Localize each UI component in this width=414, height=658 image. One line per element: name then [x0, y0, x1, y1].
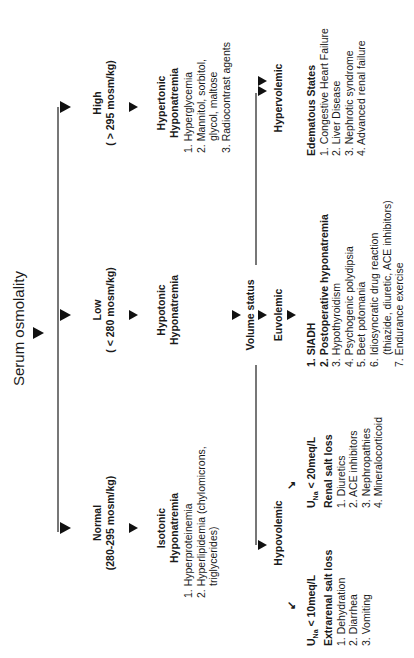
diagram-title: Serum osmolality	[10, 276, 27, 386]
list-item: 1. Hyperproteinemia	[182, 446, 195, 598]
hypotonic-hyponatremia: Hypotonic Hyponatremia	[155, 255, 181, 365]
list-item: 3. Radiocontrast agents	[220, 42, 233, 153]
down-arrow-icon	[60, 101, 71, 113]
criterion-value: < 10meq/L	[305, 575, 317, 630]
branch-normal-label: Normal	[91, 458, 104, 588]
diagonal-arrow-right-icon: ↘	[285, 481, 298, 490]
euvolemic-causes-list: 1. SIADH 2. Postoperative hyponatremia 3…	[305, 200, 406, 367]
list-item: (thiazide, diuretic, ACE inhibitors)	[381, 200, 394, 367]
extrarenal-salt-loss: UNa < 10meq/L Extrarenal salt loss 1. De…	[305, 550, 372, 646]
branch-high-label: High	[91, 38, 104, 168]
down-arrow-icon	[258, 86, 267, 96]
renal-salt-loss: UNa < 20meq/L Renal salt loss 1. Diureti…	[305, 417, 385, 508]
branch-low: Low ( < 280 mosm/kg)	[91, 245, 117, 375]
down-arrow-icon	[129, 102, 138, 112]
branch-normal: Normal (280-295 mosm/kg)	[91, 458, 117, 588]
edematous-states: Edematous States 1. Congestive Heart Fai…	[305, 28, 368, 156]
list-item: 6. Idiosyncratic drug reaction	[368, 200, 381, 367]
list-item: 2. Liver Disease	[330, 28, 343, 156]
hyponatremia-label: Hyponatremia	[168, 478, 181, 578]
criterion-prefix: U	[305, 500, 317, 508]
hypertonic-causes-list: 1. Hyperglycemia 2. Mannitol, sorbitol, …	[182, 42, 232, 153]
criterion-value: < 20meq/L	[305, 437, 317, 492]
hypervolemic-label: Hypervolemic	[272, 43, 285, 153]
renal-criterion: UNa < 20meq/L	[305, 417, 322, 508]
list-item: 1. Hyperglycemia	[182, 42, 195, 153]
down-arrow-icon	[258, 76, 267, 86]
branch-normal-range: (280-295 mosm/kg)	[104, 458, 117, 588]
down-arrow-icon	[60, 522, 71, 534]
list-item: 4. Psychogenic polydipsia	[343, 200, 356, 367]
down-arrow-icon	[258, 540, 267, 550]
down-arrow-icon	[258, 310, 267, 320]
extrarenal-heading: Extrarenal salt loss	[322, 550, 335, 646]
renal-heading: Renal salt loss	[322, 417, 335, 508]
branch-high: High ( > 295 mosm/kg)	[91, 38, 117, 168]
list-item: triglycerides)	[207, 446, 220, 598]
list-item: 4. Advanced renal failure	[355, 28, 368, 156]
list-item: 3. Hypothyroidism	[330, 200, 343, 367]
list-item: 5. Beet potomania	[355, 200, 368, 367]
hyponatremia-label: Hyponatremia	[168, 255, 181, 365]
list-item: glycol, maltose	[207, 42, 220, 153]
criterion-prefix: U	[305, 638, 317, 646]
diagonal-arrow-left-icon: ↙	[285, 601, 298, 610]
list-item: 3. Vomiting	[360, 550, 373, 646]
branch-high-range: ( > 295 mosm/kg)	[104, 38, 117, 168]
list-item: 2. Hyperlipidemia (chylomicrons,	[195, 446, 208, 598]
euvolemic-label: Euvolemic	[272, 265, 285, 365]
isotonic-hyponatremia: Isotonic Hyponatremia	[155, 478, 181, 578]
list-item: 1. Congestive Heart Failure	[318, 28, 331, 156]
down-arrow-icon	[60, 309, 71, 321]
list-item: 4. Mineralocorticoid	[372, 417, 385, 508]
list-item: 2. Postoperative hyponatremia	[318, 200, 331, 367]
criterion-subscript: Na	[312, 491, 319, 500]
isotonic-label: Isotonic	[155, 478, 168, 578]
list-item: 1. SIADH	[305, 200, 318, 367]
branch-line-volume-left	[255, 365, 257, 545]
down-arrow-icon	[287, 310, 296, 320]
edematous-heading: Edematous States	[305, 28, 318, 156]
hypotonic-label: Hypotonic	[155, 255, 168, 365]
branch-low-label: Low	[91, 245, 104, 375]
hypertonic-hyponatremia: Hypertonic Hyponatremia	[155, 48, 181, 158]
volume-status-label: Volume status	[244, 265, 257, 365]
list-item: 3. Nephrotic syndrome	[343, 28, 356, 156]
branch-line-volume-right	[255, 93, 257, 265]
extrarenal-criterion: UNa < 10meq/L	[305, 550, 322, 646]
list-item: 2. ACE inhibitors	[347, 417, 360, 508]
isotonic-causes-list: 1. Hyperproteinemia 2. Hyperlipidemia (c…	[182, 446, 220, 598]
down-arrow-icon	[33, 327, 44, 339]
list-item: 3. Nephropathies	[360, 417, 373, 508]
down-arrow-icon	[129, 310, 138, 320]
list-item: 1. Diuretics	[335, 417, 348, 508]
down-arrow-icon	[232, 310, 241, 320]
down-arrow-icon	[129, 523, 138, 533]
branch-low-range: ( < 280 mosm/kg)	[104, 245, 117, 375]
hypovolemic-label: Hypovolemic	[272, 478, 285, 588]
list-item: 7. Endurance exercise	[393, 200, 406, 367]
list-item: 2. Mannitol, sorbitol,	[195, 42, 208, 153]
criterion-subscript: Na	[312, 629, 319, 638]
branch-line-osmolality	[57, 107, 59, 532]
flowchart: Serum osmolality Normal (280-295 mosm/kg…	[0, 0, 414, 658]
hypertonic-label: Hypertonic	[155, 48, 168, 158]
list-item: 1. Dehydration	[335, 550, 348, 646]
hyponatremia-label: Hyponatremia	[168, 48, 181, 158]
list-item: 2. Diarrhea	[347, 550, 360, 646]
